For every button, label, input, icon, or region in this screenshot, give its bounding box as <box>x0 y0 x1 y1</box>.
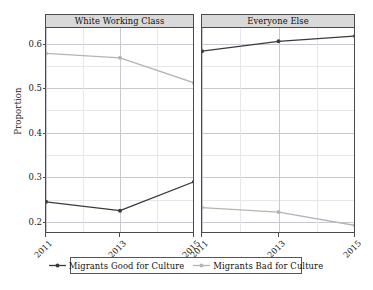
legend-item[interactable]: Migrants Bad for Culture <box>193 261 323 271</box>
x-axis-tick-label: 2015 <box>340 238 363 261</box>
x-axis-tick-mark <box>201 233 202 237</box>
data-point-marker <box>277 210 281 214</box>
series-line <box>202 36 355 51</box>
legend-label: Migrants Good for Culture <box>69 261 185 271</box>
legend-key-icon <box>193 261 210 270</box>
y-axis-tick-label: 0.3 <box>20 172 42 182</box>
y-axis-tick-label: 0.2 <box>20 217 42 227</box>
data-point-marker <box>353 223 355 227</box>
data-point-marker <box>353 34 355 38</box>
facet-strip-label: Everyone Else <box>201 14 355 28</box>
data-point-marker <box>45 51 48 55</box>
legend-key-icon <box>49 261 66 270</box>
x-axis-tick-mark <box>278 233 279 237</box>
x-axis-tick-mark <box>193 233 194 237</box>
data-point-marker <box>118 209 122 213</box>
y-axis-tick-label: 0.5 <box>20 83 42 93</box>
plot-area <box>45 28 194 233</box>
data-point-marker <box>118 56 122 60</box>
y-axis-tick-label: 0.6 <box>20 39 42 49</box>
data-point-marker <box>192 81 194 85</box>
data-point-marker <box>45 200 48 204</box>
legend-item[interactable]: Migrants Good for Culture <box>49 261 185 271</box>
x-axis-tick-mark <box>119 233 120 237</box>
legend-label: Migrants Bad for Culture <box>213 261 323 271</box>
facet-panel: White Working Class <box>45 14 194 233</box>
chart-root: Proportion 0.20.30.40.50.6 White Working… <box>0 0 373 290</box>
plot-area <box>201 28 355 233</box>
facet-strip-label: White Working Class <box>45 14 194 28</box>
x-axis-tick-mark <box>354 233 355 237</box>
series-layer <box>202 28 355 233</box>
y-axis-tick-label: 0.4 <box>20 128 42 138</box>
series-line <box>46 182 194 211</box>
data-point-marker <box>277 39 281 43</box>
data-point-marker <box>201 49 204 53</box>
facet-panel: Everyone Else <box>201 14 355 233</box>
series-layer <box>46 28 194 233</box>
data-point-marker <box>192 180 194 184</box>
data-point-marker <box>201 206 204 210</box>
x-axis-tick-mark <box>45 233 46 237</box>
chart-legend: Migrants Good for CultureMigrants Bad fo… <box>70 257 302 274</box>
